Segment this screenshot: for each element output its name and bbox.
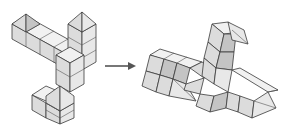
column-center [56, 47, 84, 92]
arm-right [226, 68, 278, 118]
diagram-canvas [0, 0, 281, 127]
bottom-cluster [32, 86, 74, 124]
transformed-structure-drawing [140, 0, 281, 127]
transform-arrow [104, 60, 138, 72]
transformed-structure [140, 0, 281, 127]
tower-upright [202, 22, 248, 92]
right-arrow-icon [104, 60, 138, 72]
original-structure-drawing [0, 0, 100, 127]
original-structure [0, 0, 100, 127]
